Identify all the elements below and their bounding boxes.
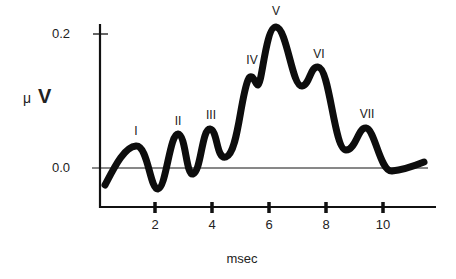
x-tick-label-6: 6	[265, 217, 272, 232]
peak-label-ii: II	[175, 114, 182, 128]
peak-label-iii: III	[206, 108, 216, 122]
peak-label-iv: IV	[246, 53, 257, 67]
y-tick-label-top: 0.2	[52, 26, 70, 41]
chart-canvas	[0, 0, 456, 279]
y-tick-label-zero: 0.0	[52, 160, 70, 175]
x-tick-label-4: 4	[208, 217, 215, 232]
waveform-line	[105, 27, 424, 189]
x-tick-label-8: 8	[322, 217, 329, 232]
peak-label-vi: VI	[313, 47, 324, 61]
y-axis-label-mu: μ	[23, 90, 31, 106]
y-axis-label-unit: V	[38, 85, 51, 108]
x-tick-label-2: 2	[151, 217, 158, 232]
peak-label-v: V	[272, 4, 280, 18]
x-axis-label: msec	[226, 251, 257, 266]
x-tick-label-10: 10	[376, 217, 390, 232]
peak-label-i: I	[134, 124, 137, 138]
peak-label-vii: VII	[360, 107, 375, 121]
